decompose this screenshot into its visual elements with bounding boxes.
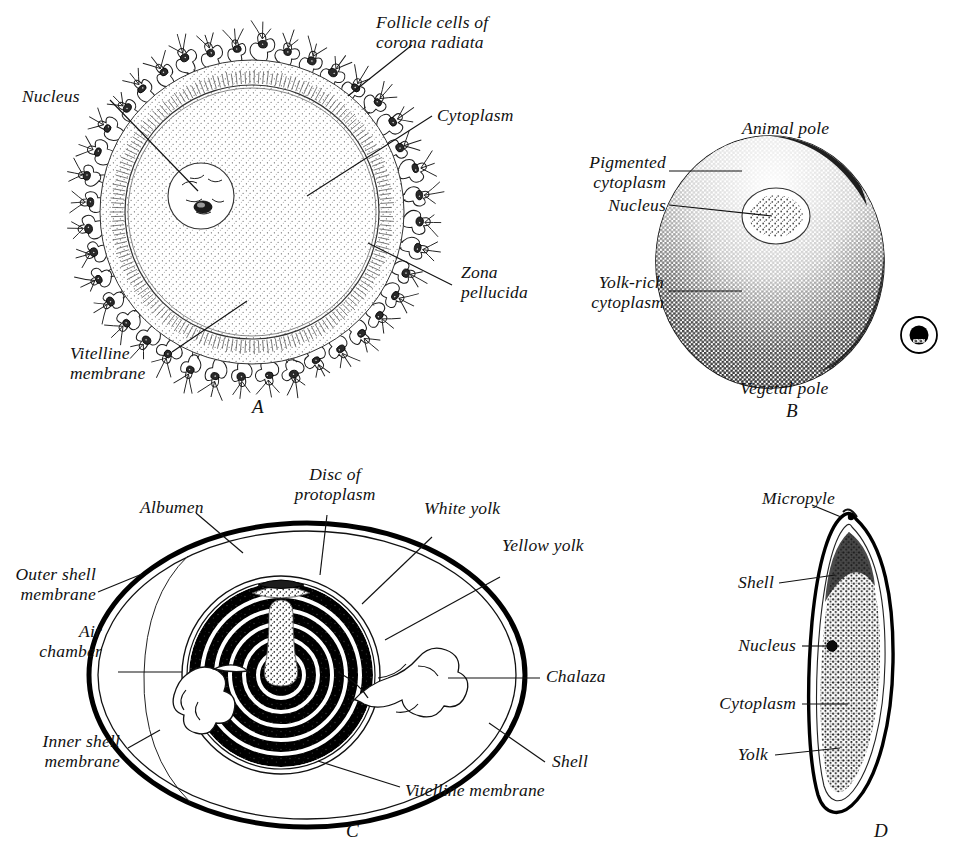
- label-pigmented-cytoplasm-line2: cytoplasm: [494, 172, 666, 193]
- label-yolk-d: Yolk: [660, 744, 768, 765]
- label-follicle-cells-line1: Follicle cells of: [376, 12, 488, 33]
- label-air-line1: Air: [0, 621, 102, 642]
- label-disc-line1: Disc of: [280, 464, 390, 485]
- label-cytoplasm-a: Cytoplasm: [437, 105, 514, 126]
- label-yolk-rich-cytoplasm-line2: cytoplasm: [494, 292, 664, 313]
- scale-egg-inset: [901, 317, 937, 353]
- label-vegetal-pole: Vegetal pole: [740, 378, 828, 399]
- label-nucleus-b: Nucleus: [494, 195, 666, 216]
- panel-letter-b: B: [786, 400, 798, 422]
- label-yolk-rich-line1: Yolk-rich: [494, 272, 664, 293]
- label-shell-d: Shell: [660, 572, 774, 593]
- amphibian-nucleus-stipple: [749, 195, 803, 237]
- label-animal-pole: Animal pole: [742, 118, 829, 139]
- label-vitelline-line1-a: Vitelline: [70, 343, 130, 364]
- panel-b-artwork: [650, 129, 937, 400]
- label-nucleus-a: Nucleus: [22, 86, 80, 107]
- label-chamber-line2: chamber: [0, 641, 102, 662]
- label-chalaza: Chalaza: [546, 666, 606, 687]
- label-vitelline-membrane-c: Vitelline membrane: [405, 780, 545, 801]
- label-shell-c: Shell: [552, 751, 588, 772]
- label-protoplasm-line2: protoplasm: [280, 484, 390, 505]
- label-outer-shell-line1: Outer shell: [0, 564, 96, 585]
- panel-letter-d: D: [874, 820, 888, 842]
- label-albumen: Albumen: [140, 497, 204, 518]
- figure-plate: Follicle cells of corona radiata Nucleus…: [0, 0, 957, 860]
- panel-d-artwork: [775, 505, 893, 812]
- label-pigmented-line1: Pigmented: [494, 152, 666, 173]
- label-inner-shell-membrane-line2: membrane: [0, 751, 120, 772]
- label-membrane-line2-a: membrane: [70, 363, 145, 384]
- label-cytoplasm-d: Cytoplasm: [660, 693, 796, 714]
- ovum-nucleus: [168, 163, 234, 229]
- label-zona-line1: Zona: [461, 262, 498, 283]
- label-outer-shell-membrane-line2: membrane: [0, 584, 96, 605]
- insect-nucleus: [827, 641, 837, 651]
- panel-letter-a: A: [252, 396, 264, 418]
- label-inner-shell-line1: Inner shell: [0, 731, 120, 752]
- label-white-yolk: White yolk: [424, 498, 500, 519]
- micropyle-pore: [848, 514, 854, 520]
- ovum-cytoplasm: [128, 88, 376, 336]
- latebra: [264, 600, 297, 686]
- label-nucleus-d: Nucleus: [660, 635, 796, 656]
- leader-follicle-cells: [348, 45, 412, 96]
- panel-letter-c: C: [346, 820, 359, 842]
- label-micropyle: Micropyle: [762, 488, 835, 509]
- label-corona-radiata-line2: corona radiata: [376, 32, 484, 53]
- label-yellow-yolk: Yellow yolk: [502, 535, 584, 556]
